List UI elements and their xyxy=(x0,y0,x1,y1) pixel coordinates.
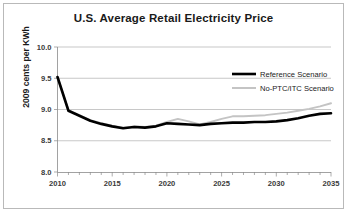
x-tick-label: 2030 xyxy=(268,179,285,188)
gridlines xyxy=(58,47,332,141)
legend-label: No-PTC/ITC Scenario xyxy=(260,84,334,93)
y-tick-marks xyxy=(54,47,58,172)
y-tick-label: 8.0 xyxy=(41,168,52,177)
x-tick-label: 2020 xyxy=(158,179,175,188)
plot-area: 10.09.59.08.58.0 20102015202020252030203… xyxy=(0,0,347,212)
y-tick-label: 10.0 xyxy=(37,43,52,52)
x-tick-label: 2010 xyxy=(49,179,66,188)
legend-label: Reference Scenario xyxy=(260,70,327,79)
chart-figure: U.S. Average Retail Electricity Price 20… xyxy=(0,0,347,212)
x-tick-label: 2025 xyxy=(213,179,231,188)
x-tick-labels: 201020152020202520302035 xyxy=(49,179,340,188)
y-tick-labels: 10.09.59.08.58.0 xyxy=(37,43,53,177)
y-tick-label: 9.0 xyxy=(41,105,52,114)
chart-legend: Reference ScenarioNo-PTC/ITC Scenario xyxy=(232,70,334,93)
x-tick-label: 2035 xyxy=(323,179,341,188)
y-tick-label: 8.5 xyxy=(41,136,52,145)
y-tick-label: 9.5 xyxy=(41,74,52,83)
x-tick-label: 2015 xyxy=(104,179,122,188)
